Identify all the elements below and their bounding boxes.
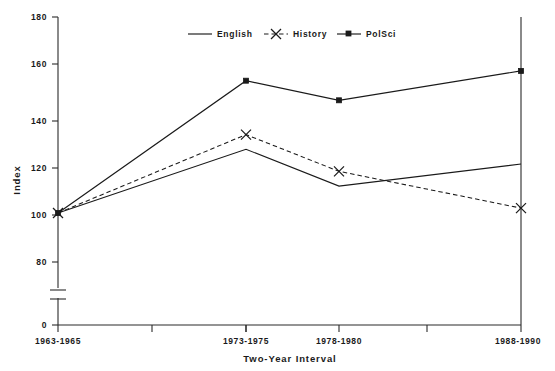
- x-tick-label-1978-1980: 1978-1980: [316, 336, 362, 346]
- y-tick-label-140: 140: [31, 116, 47, 126]
- y-tick-labels: 180 160 140 120 100 80 0: [31, 12, 47, 330]
- y-tick-label-160: 160: [31, 59, 47, 69]
- series-line-polsci: [58, 71, 521, 213]
- series-layer: [53, 68, 526, 218]
- chart-container: 180 160 140 120 100 80 0 Index 1963-1965…: [0, 0, 555, 371]
- y-tick-label-180: 180: [31, 12, 47, 22]
- data-point-history-1978-1980: [334, 166, 344, 176]
- y-tick-label-0: 0: [42, 320, 47, 330]
- axes-group: [50, 17, 521, 332]
- legend-label-history: History: [293, 29, 327, 39]
- legend-label-polsci: PolSci: [366, 29, 396, 39]
- data-point-polsci-1973-1975: [244, 78, 249, 83]
- series-history: [53, 130, 526, 218]
- y-tick-label-100: 100: [31, 210, 47, 220]
- series-english: [58, 149, 521, 213]
- legend: English History PolSci: [188, 29, 396, 39]
- series-polsci: [56, 68, 524, 215]
- y-axis-title: Index: [11, 165, 22, 194]
- data-point-polsci-1963-1965: [56, 211, 61, 216]
- y-tick-label-80: 80: [36, 257, 47, 267]
- data-point-polsci-1988-1990: [519, 68, 524, 73]
- series-line-history: [58, 135, 521, 213]
- x-tick-label-1963-1965: 1963-1965: [35, 336, 81, 346]
- legend-marker-polsci-square: [346, 31, 351, 36]
- data-point-polsci-1978-1980: [337, 98, 342, 103]
- series-line-english: [58, 149, 521, 213]
- x-tick-label-1988-1990: 1988-1990: [495, 336, 541, 346]
- legend-label-english: English: [217, 29, 253, 39]
- data-point-history-1973-1975: [241, 130, 251, 140]
- x-tick-labels: 1963-1965 1973-1975 1978-1980 1988-1990: [35, 336, 541, 346]
- y-tick-label-120: 120: [31, 163, 47, 173]
- line-chart: 180 160 140 120 100 80 0 Index 1963-1965…: [0, 0, 555, 371]
- x-tick-label-1973-1975: 1973-1975: [223, 336, 269, 346]
- x-axis-title: Two-Year Interval: [243, 353, 336, 364]
